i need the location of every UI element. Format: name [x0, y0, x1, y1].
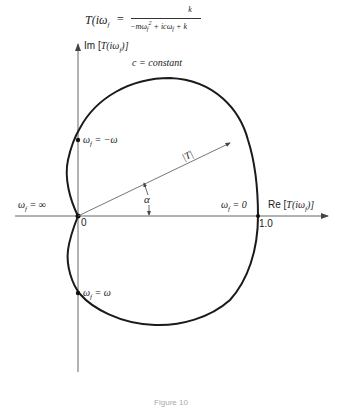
pos-omega-point	[76, 291, 80, 295]
pos-omega-label: ωf = ω	[83, 287, 111, 301]
imaginary-axis-label: Im [T(iωf)]	[84, 40, 129, 54]
neg-omega-point	[76, 138, 80, 142]
origin-label: 0	[81, 217, 87, 228]
zero-freq-label: ωf = 0	[221, 199, 247, 213]
neg-omega-label: ωf = −ω	[83, 134, 118, 148]
angle-label: α	[144, 193, 150, 205]
figure-caption: Figure 10	[0, 398, 342, 407]
infinity-label: ωf = ∞	[18, 199, 46, 213]
unit-label: 1.0	[259, 218, 273, 229]
curve-label: c = constant	[132, 57, 182, 68]
magnitude-vector	[78, 143, 230, 216]
real-axis-label: Re [T(iωf)]	[268, 199, 314, 213]
